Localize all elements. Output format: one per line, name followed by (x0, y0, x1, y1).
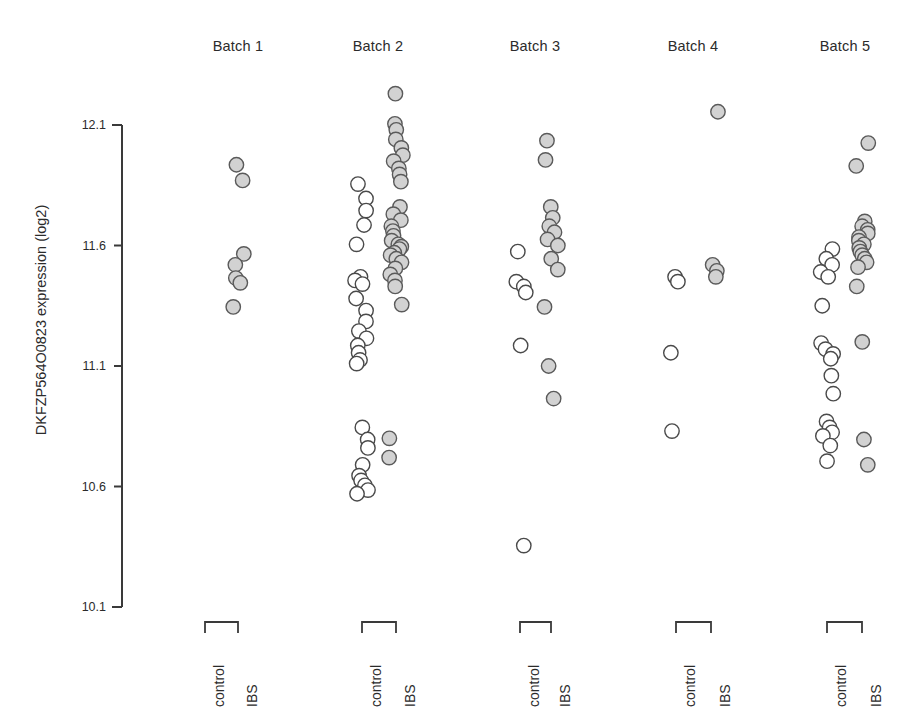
batch-title-1: Batch 1 (213, 38, 264, 54)
group-label-control-batch1: control (211, 665, 227, 707)
data-point (855, 219, 869, 233)
data-point (544, 252, 558, 266)
data-point (857, 432, 871, 446)
data-point (388, 273, 402, 287)
data-point (511, 244, 525, 258)
data-point (384, 219, 398, 233)
data-point (859, 255, 873, 269)
data-point (387, 246, 401, 260)
data-point (814, 265, 828, 279)
data-point (360, 432, 374, 446)
data-points-layer (0, 0, 916, 727)
data-point (389, 123, 403, 137)
data-point (541, 359, 555, 373)
data-point (861, 458, 875, 472)
data-point (814, 336, 828, 350)
data-point (858, 214, 872, 228)
data-point (394, 174, 408, 188)
data-point (349, 237, 363, 251)
y-tick-label: 12.1 (66, 118, 106, 132)
data-point (355, 458, 369, 472)
data-point (352, 324, 366, 338)
y-tick-label: 11.1 (66, 359, 106, 373)
data-point (354, 473, 368, 487)
data-point (850, 279, 864, 293)
data-point (815, 299, 829, 313)
group-label-ibs-batch4: IBS (717, 684, 733, 707)
data-point (386, 224, 400, 238)
data-point (852, 230, 866, 244)
data-point (547, 225, 561, 239)
data-point (359, 303, 373, 317)
data-point (825, 242, 839, 256)
data-point (359, 331, 373, 345)
data-point (826, 387, 840, 401)
data-point (852, 241, 866, 255)
y-axis-title: DKFZP564O0823 expression (log2) (30, 0, 52, 640)
data-point (824, 368, 838, 382)
data-point (384, 233, 398, 247)
data-point (861, 136, 875, 150)
data-point (705, 258, 719, 272)
data-point (392, 161, 406, 175)
data-point (542, 219, 556, 233)
data-point (353, 353, 367, 367)
group-brackets-layer (0, 0, 916, 727)
data-point (382, 450, 396, 464)
data-point (352, 468, 366, 482)
data-point (394, 141, 408, 155)
y-tick-label: 10.6 (66, 480, 106, 494)
data-point (540, 133, 554, 147)
data-point (355, 420, 369, 434)
data-point (226, 300, 240, 314)
group-label-ibs-batch5: IBS (868, 684, 884, 707)
data-point (351, 338, 365, 352)
data-point (358, 478, 372, 492)
data-point (861, 226, 875, 240)
data-point (233, 276, 247, 290)
data-point (359, 191, 373, 205)
data-point (710, 264, 724, 278)
data-point (237, 247, 251, 261)
group-label-ibs-batch3: IBS (557, 684, 573, 707)
y-tick-label: 11.6 (66, 239, 106, 253)
data-point (849, 159, 863, 173)
data-point (517, 538, 531, 552)
data-point (348, 273, 362, 287)
data-point (351, 177, 365, 191)
data-point (388, 261, 402, 275)
data-point (395, 297, 409, 311)
data-point (388, 117, 402, 131)
group-label-control-batch4: control (682, 665, 698, 707)
data-point (819, 414, 833, 428)
data-point (353, 270, 367, 284)
data-point (858, 252, 872, 266)
group-label-control-batch3: control (526, 665, 542, 707)
data-point (389, 132, 403, 146)
data-point (816, 429, 830, 443)
data-point (361, 483, 375, 497)
data-point (857, 237, 871, 251)
data-point (228, 258, 242, 272)
batch-title-2: Batch 2 (353, 38, 404, 54)
data-point (665, 424, 679, 438)
data-point (361, 441, 375, 455)
data-point (546, 391, 560, 405)
data-point (357, 218, 371, 232)
data-point (538, 153, 552, 167)
data-point (544, 200, 558, 214)
data-point (855, 248, 869, 262)
data-point (349, 291, 363, 305)
data-point (822, 420, 836, 434)
data-point (383, 248, 397, 262)
data-point (386, 154, 400, 168)
data-point (519, 285, 533, 299)
data-point (513, 338, 527, 352)
data-point (388, 279, 402, 293)
data-point (394, 240, 408, 254)
data-point (392, 242, 406, 256)
data-point (668, 270, 682, 284)
data-point (853, 244, 867, 258)
data-point (394, 255, 408, 269)
data-point (389, 252, 403, 266)
